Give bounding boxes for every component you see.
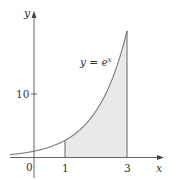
- function-label-exponent: x: [108, 56, 112, 64]
- x-axis-arrow-icon: [157, 155, 164, 160]
- x-axis-label: x: [156, 162, 163, 175]
- function-label: y = ex: [79, 56, 112, 68]
- function-label-base: y = e: [79, 56, 108, 68]
- y-axis-arrow-icon: [32, 11, 37, 18]
- chart-canvas: y x 0 1 3 10 y = ex: [0, 0, 176, 180]
- y-tick-label-10: 10: [16, 88, 29, 100]
- x-tick-label-3: 3: [124, 162, 131, 174]
- origin-label: 0: [26, 161, 33, 173]
- shaded-area: [65, 31, 127, 158]
- x-tick-label-1: 1: [62, 162, 69, 174]
- y-axis-label: y: [23, 7, 31, 20]
